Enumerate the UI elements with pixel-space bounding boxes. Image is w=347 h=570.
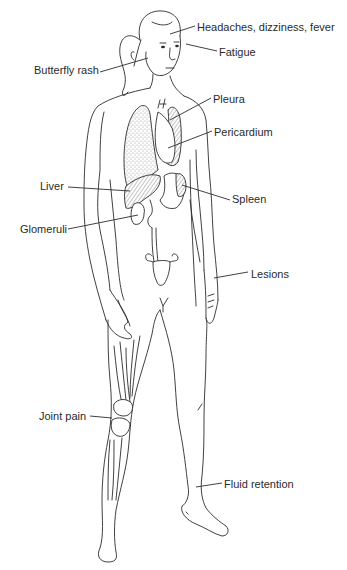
- label-lesions: Lesions: [251, 268, 289, 280]
- leader-glomeruli: [68, 215, 138, 229]
- label-pleura: Pleura: [213, 93, 245, 105]
- label-fatigue: Fatigue: [219, 46, 256, 58]
- label-liver: Liver: [40, 180, 64, 192]
- kidney: [131, 203, 144, 225]
- label-fluid-retention: Fluid retention: [224, 478, 294, 490]
- head: [120, 11, 184, 96]
- label-butterfly-rash: Butterfly rash: [34, 64, 99, 76]
- leader-fluid-retention: [196, 483, 222, 487]
- knee-joint: [114, 400, 133, 417]
- label-glomeruli: Glomeruli: [20, 223, 67, 235]
- label-joint-pain: Joint pain: [39, 410, 86, 422]
- leader-joint-pain: [90, 416, 112, 418]
- spleen: [176, 174, 186, 197]
- anatomy-diagram: Headaches, dizziness, fever Fatigue Butt…: [0, 0, 347, 570]
- leader-lesions: [214, 272, 248, 278]
- label-spleen: Spleen: [232, 193, 266, 205]
- legs: [98, 310, 228, 562]
- label-pericardium: Pericardium: [214, 126, 273, 138]
- leader-fatigue: [186, 44, 217, 51]
- organs: [124, 99, 186, 312]
- leader-spleen: [182, 185, 230, 200]
- label-headaches: Headaches, dizziness, fever: [197, 21, 335, 33]
- leader-headaches: [170, 26, 195, 34]
- uterus: [153, 261, 170, 286]
- body-illustration: [0, 0, 347, 570]
- leader-liver: [68, 187, 130, 191]
